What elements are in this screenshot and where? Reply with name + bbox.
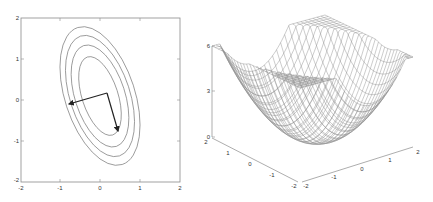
ytick-label: 0 xyxy=(16,97,20,103)
contour-plot: 2 1 0 -1 -2 -2 -1 0 1 2 xyxy=(14,15,183,191)
contour-x-tick-labels: -2 -1 0 1 2 xyxy=(18,185,182,191)
z-tick-labels: 6 3 0 xyxy=(207,43,211,140)
ztick-label: 6 xyxy=(207,43,211,49)
surface-plot: 6 3 0 2 1 0 -1 -2 -2 -1 0 1 2 xyxy=(204,15,420,189)
tick-label: -2 xyxy=(303,183,309,189)
ytick-label: 2 xyxy=(16,15,20,21)
tick-label: 2 xyxy=(416,149,420,155)
floor-axis-left xyxy=(212,138,298,182)
ztick-label: 3 xyxy=(207,88,211,94)
xtick-label: -2 xyxy=(18,185,24,191)
tick-label: -1 xyxy=(269,172,275,178)
contour-y-tick-labels: 2 1 0 -1 -2 xyxy=(14,15,20,183)
tick-label: 0 xyxy=(248,161,252,167)
tick-label: 0 xyxy=(360,166,364,172)
tick-label: -1 xyxy=(331,174,337,180)
xtick-label: 2 xyxy=(178,185,182,191)
floor-left-tick-labels: 2 1 0 -1 -2 xyxy=(204,139,297,189)
tick-label: 1 xyxy=(388,157,392,163)
xtick-label: 1 xyxy=(138,185,142,191)
ytick-label: -1 xyxy=(14,138,20,144)
ytick-label: -2 xyxy=(14,177,20,183)
tick-label: -2 xyxy=(291,183,297,189)
ytick-label: 1 xyxy=(16,56,20,62)
xtick-label: -1 xyxy=(57,185,63,191)
floor-axis-right xyxy=(302,147,413,182)
contour-plot-frame xyxy=(21,18,180,182)
floor-right-tick-labels: -2 -1 0 1 2 xyxy=(303,149,420,189)
tick-label: 1 xyxy=(226,150,230,156)
figure-canvas: 2 1 0 -1 -2 -2 -1 0 1 2 6 3 0 xyxy=(0,0,433,202)
xtick-label: 0 xyxy=(98,185,102,191)
